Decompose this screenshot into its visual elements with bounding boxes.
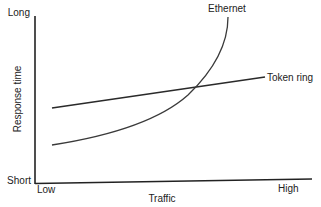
response-time-chart: Long Short Low High Traffic Response tim… bbox=[0, 0, 321, 207]
y-axis-top-label: Long bbox=[8, 7, 30, 18]
token-ring-line bbox=[52, 77, 265, 108]
x-axis bbox=[35, 179, 312, 184]
ethernet-label: Ethernet bbox=[208, 3, 246, 14]
x-axis-title: Traffic bbox=[148, 193, 175, 204]
y-axis-title: Response time bbox=[12, 65, 23, 132]
x-axis-right-label: High bbox=[278, 183, 299, 194]
token-ring-label: Token ring bbox=[267, 72, 313, 83]
ethernet-curve bbox=[52, 17, 228, 145]
y-axis-bottom-label: Short bbox=[7, 175, 31, 186]
x-axis-left-label: Low bbox=[37, 184, 56, 195]
